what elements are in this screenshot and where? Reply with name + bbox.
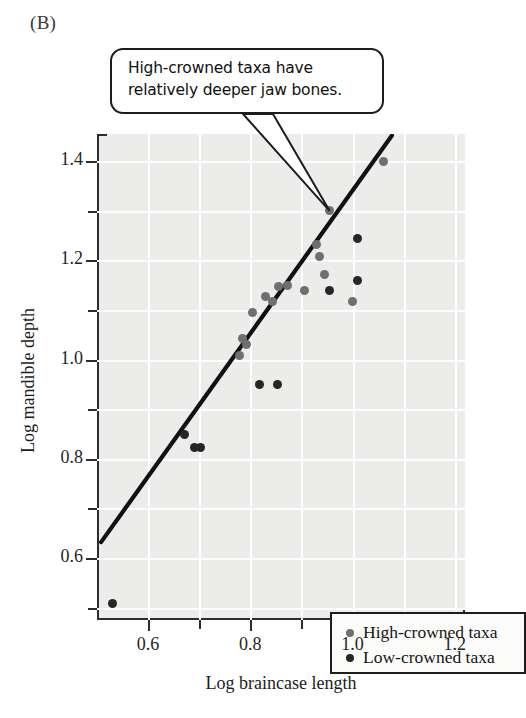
- y-axis-tick: [86, 360, 97, 362]
- gridline-horizontal: [97, 608, 465, 610]
- callout-line-2: relatively deeper jaw bones.: [128, 79, 368, 101]
- data-point-high: [348, 297, 357, 306]
- data-point-high: [379, 157, 388, 166]
- y-axis-tick: [88, 508, 97, 510]
- x-axis-tick: [148, 620, 150, 631]
- gridline-vertical: [199, 134, 201, 620]
- callout-line-1: High-crowned taxa have: [128, 57, 368, 79]
- gridline-horizontal: [97, 310, 465, 312]
- x-tick-label: 0.8: [225, 634, 275, 655]
- gridline-horizontal: [97, 459, 465, 461]
- data-point-low: [255, 380, 264, 389]
- y-tick-label: 1.4: [37, 149, 83, 170]
- y-axis-tick: [88, 310, 97, 312]
- x-tick-label: 1.2: [430, 634, 480, 655]
- y-axis-tick: [88, 409, 97, 411]
- gridline-horizontal: [97, 558, 465, 560]
- y-axis-top-cap: [97, 134, 107, 136]
- panel-label: (B): [30, 12, 56, 34]
- callout-box: High-crowned taxa have relatively deeper…: [110, 48, 384, 114]
- y-axis-title: Log mandible depth: [18, 191, 39, 571]
- data-point-high: [268, 297, 277, 306]
- y-axis-tick: [88, 211, 97, 213]
- y-axis-tick: [86, 459, 97, 461]
- data-point-low: [353, 276, 362, 285]
- gridline-horizontal: [97, 211, 465, 213]
- data-point-high: [274, 282, 283, 291]
- regression-line: [97, 134, 465, 620]
- x-axis-tick: [250, 620, 252, 631]
- gridline-vertical: [455, 134, 457, 620]
- data-point-low: [353, 234, 362, 243]
- y-tick-label: 1.0: [37, 348, 83, 369]
- x-axis-tick: [301, 620, 303, 629]
- y-tick-label: 1.2: [37, 248, 83, 269]
- gridline-vertical: [250, 134, 252, 620]
- x-axis-title: Log braincase length: [97, 673, 465, 694]
- y-axis-tick: [86, 558, 97, 560]
- x-tick-label: 0.6: [123, 634, 173, 655]
- data-point-low: [196, 443, 205, 452]
- gridline-vertical: [148, 134, 150, 620]
- data-point-high: [325, 206, 334, 215]
- y-axis-tick: [88, 608, 97, 610]
- gridline-vertical: [404, 134, 406, 620]
- y-axis-line: [97, 134, 99, 620]
- y-axis-tick: [86, 161, 97, 163]
- data-point-low: [180, 430, 189, 439]
- data-point-high: [283, 281, 292, 290]
- gridline-horizontal: [97, 360, 465, 362]
- x-axis-tick: [199, 620, 201, 629]
- data-point-high: [320, 270, 329, 279]
- data-point-high: [235, 351, 244, 360]
- data-point-high: [248, 308, 257, 317]
- gridline-horizontal: [97, 508, 465, 510]
- x-tick-label: 1.0: [328, 634, 378, 655]
- y-axis-tick: [86, 260, 97, 262]
- gridline-horizontal: [97, 260, 465, 262]
- data-point-low: [273, 380, 282, 389]
- data-point-high: [300, 286, 309, 295]
- gridline-horizontal: [97, 409, 465, 411]
- y-tick-label: 0.6: [37, 546, 83, 567]
- gridline-vertical: [353, 134, 355, 620]
- gridline-horizontal: [97, 161, 465, 163]
- plot-area: High-crowned taxa Low-crowned taxa: [97, 134, 465, 620]
- data-point-low: [108, 599, 117, 608]
- y-tick-label: 0.8: [37, 447, 83, 468]
- gridline-vertical: [301, 134, 303, 620]
- data-point-low: [325, 286, 334, 295]
- data-point-high: [312, 240, 321, 249]
